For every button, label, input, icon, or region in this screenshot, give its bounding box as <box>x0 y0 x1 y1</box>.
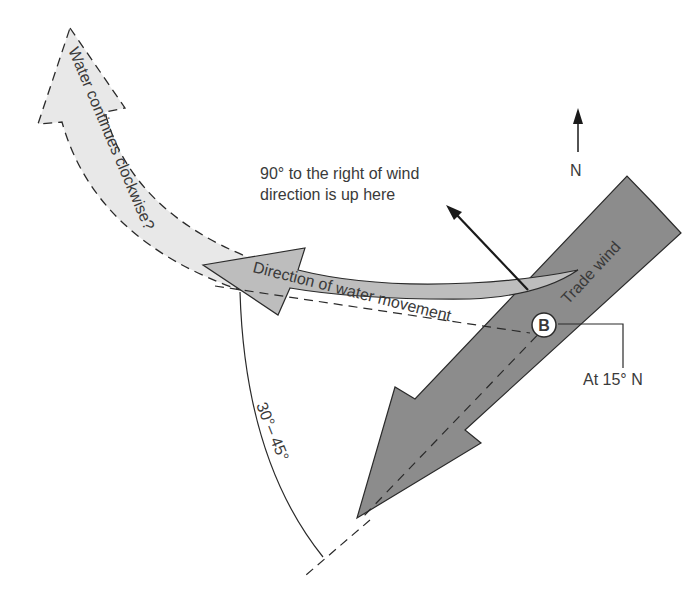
angle-label: 30°– 45° <box>253 400 292 464</box>
ninety-degree-label-line2: direction is up here <box>260 186 395 203</box>
angle-arc <box>240 292 323 557</box>
trade-wind-arrow <box>357 176 681 518</box>
ninety-degree-arrow <box>446 205 528 290</box>
ninety-degree-label-line1: 90° to the right of wind <box>260 165 419 182</box>
north-label: N <box>570 162 582 179</box>
ekman-transport-diagram: N B At 15° N 90° to the right of wind di… <box>0 0 686 600</box>
point-b-label: B <box>538 317 550 334</box>
north-arrow-icon <box>573 108 583 152</box>
latitude-label: At 15° N <box>583 371 643 388</box>
water-continues-arrow <box>38 28 250 290</box>
